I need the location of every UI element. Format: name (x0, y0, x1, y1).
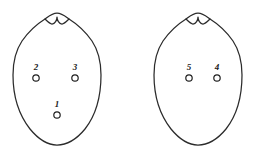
marker-label-2: 2 (33, 62, 39, 72)
marker-ring-2 (33, 75, 39, 81)
marker-group-3: 3 (72, 62, 78, 81)
marker-ring-4 (214, 75, 220, 81)
anatomical-diagram: 1 2 3 4 5 (0, 0, 266, 157)
marker-group-4: 4 (214, 62, 220, 81)
marker-ring-1 (54, 112, 60, 118)
marker-ring-3 (72, 75, 78, 81)
marker-label-5: 5 (187, 62, 192, 72)
marker-ring-5 (186, 75, 192, 81)
marker-label-3: 3 (72, 62, 78, 72)
marker-group-1: 1 (54, 99, 60, 118)
marker-group-2: 2 (33, 62, 39, 81)
marker-label-4: 4 (214, 62, 220, 72)
marker-label-1: 1 (55, 99, 60, 109)
marker-group-5: 5 (186, 62, 192, 81)
